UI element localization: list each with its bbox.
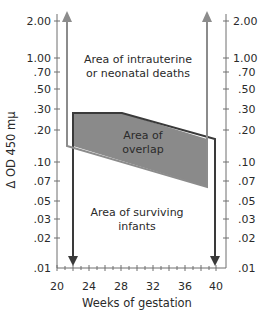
y-tick-right: .20 (238, 124, 256, 137)
y-tick-right: .10 (238, 156, 256, 169)
y-tick-right: .70 (238, 66, 256, 79)
y-tick-right: 2.00 (233, 15, 258, 28)
y-tick-left: .01 (34, 262, 52, 275)
y-axis-title: Δ OD 450 mμ (4, 111, 18, 189)
y-tick-left: .30 (34, 103, 52, 116)
y-tick-right: .50 (238, 83, 256, 96)
y-tick-right: .02 (238, 232, 256, 245)
x-tick: 24 (82, 280, 96, 293)
y-tick-left: .10 (34, 156, 52, 169)
arrow-down-right-icon (210, 256, 220, 266)
right-y-axis: 2.00 1.00 .70 .50 .30 .20 .10 .07 .05 .0… (223, 14, 258, 275)
y-tick-left: 2.00 (27, 15, 52, 28)
y-tick-right: .30 (238, 103, 256, 116)
death-area-label: Area of intrauterine (84, 53, 192, 66)
overlap-area-label: overlap (122, 143, 163, 156)
y-tick-right: .01 (238, 262, 256, 275)
overlap-area-label: Area of (123, 129, 164, 142)
x-tick: 20 (50, 280, 64, 293)
y-tick-left: .07 (34, 175, 52, 188)
left-y-axis: 2.00 1.00 .70 .50 .30 .20 .10 .07 .05 .0… (27, 14, 61, 275)
y-tick-right: .07 (238, 175, 256, 188)
y-tick-left: 1.00 (27, 52, 52, 65)
y-tick-left: .50 (34, 83, 52, 96)
arrow-up-right-icon (202, 11, 212, 22)
y-tick-right: .05 (238, 195, 256, 208)
survival-area-label: infants (118, 220, 156, 233)
x-axis: 20 24 28 32 36 40 (50, 265, 226, 293)
x-tick: 32 (146, 280, 160, 293)
death-area-label: or neonatal deaths (86, 67, 190, 80)
x-axis-title: Weeks of gestation (82, 296, 192, 310)
y-tick-left: .20 (34, 124, 52, 137)
x-tick: 40 (209, 280, 223, 293)
chart: 2.00 1.00 .70 .50 .30 .20 .10 .07 .05 .0… (0, 0, 266, 320)
arrow-up-left-icon (62, 11, 72, 22)
y-tick-left: .02 (34, 232, 52, 245)
y-tick-right: 1.00 (233, 52, 258, 65)
x-tick: 28 (114, 280, 128, 293)
survival-area-label: Area of surviving (90, 206, 183, 219)
y-tick-left: .05 (34, 195, 52, 208)
y-tick-left: .03 (34, 213, 52, 226)
x-tick: 36 (178, 280, 192, 293)
arrow-down-left-icon (68, 256, 78, 266)
y-tick-right: .03 (238, 213, 256, 226)
y-tick-left: .70 (34, 66, 52, 79)
